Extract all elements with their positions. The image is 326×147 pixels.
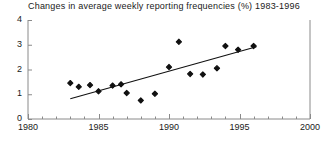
y-axis-tick-label: 2 [2, 64, 22, 74]
chart-figure: Changes in average weekly reporting freq… [0, 0, 326, 147]
data-point-marker [124, 90, 129, 95]
data-point-marker [152, 91, 157, 96]
data-point-marker [96, 89, 101, 94]
y-axis-tick-label: 4 [2, 14, 22, 24]
x-axis-tick-label: 2000 [290, 122, 326, 132]
data-point-marker [188, 71, 193, 76]
x-axis-tick-label: 1980 [8, 122, 48, 132]
data-point-marker [68, 81, 73, 86]
x-axis-tick-label: 1990 [149, 122, 189, 132]
data-point-marker [200, 72, 205, 77]
data-point-marker [214, 66, 219, 71]
data-point-marker [87, 82, 92, 87]
y-axis-tick-label: 3 [2, 39, 22, 49]
data-point-marker [138, 98, 143, 103]
chart-data-points [68, 39, 257, 103]
data-point-marker [166, 64, 171, 69]
x-axis-tick-label: 1995 [220, 122, 260, 132]
data-point-marker [76, 84, 81, 89]
data-point-marker [176, 39, 181, 44]
x-axis-tick-label: 1985 [79, 122, 119, 132]
data-point-marker [223, 43, 228, 48]
data-point-marker [118, 82, 123, 87]
y-axis-tick-label: 1 [2, 88, 22, 98]
